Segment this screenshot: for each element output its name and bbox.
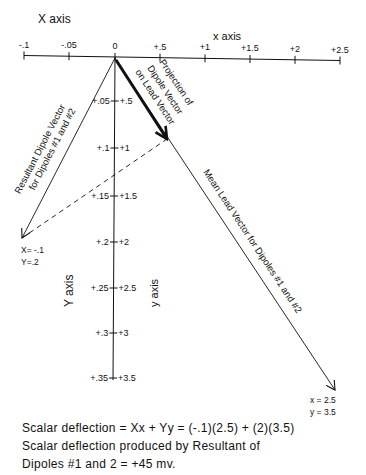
y-tick-label-right: +.5 xyxy=(120,96,133,106)
vertical-axis xyxy=(113,57,115,380)
x-tick-label: +.5 xyxy=(154,42,167,52)
y-axis-title-lower: y axis xyxy=(148,278,160,307)
y-tick-label-left: +.25 xyxy=(91,283,109,293)
resultant-endpoint-y: Y=.2 xyxy=(21,257,39,267)
x-axis-ticks: -.1-.050+.5+1+1.5+2+2.5 xyxy=(19,40,349,65)
resultant-endpoint-x: X= -.1 xyxy=(21,245,44,255)
y-axis-title-upper: Y axis xyxy=(62,275,76,307)
x-tick-label: +2.5 xyxy=(331,45,349,55)
caption-line-2: Scalar deflection produced by Resultant … xyxy=(22,439,260,453)
y-tick-label-left: +.15 xyxy=(91,191,109,201)
lead-endpoint-y: y = 3.5 xyxy=(310,407,336,417)
y-tick-label-left: +.2 xyxy=(96,237,109,247)
horizontal-axis xyxy=(24,56,340,61)
y-tick-label-right: +2 xyxy=(119,237,129,247)
x-tick-label: +2 xyxy=(290,44,300,54)
mean-lead-label: Mean Lead Vector for Dipoles #1 and #2 xyxy=(201,167,304,315)
x-tick-label: +1 xyxy=(200,42,210,52)
y-tick-label-left: +.1 xyxy=(97,143,110,153)
x-axis-title-upper: X axis xyxy=(38,12,71,26)
caption-line-1: Scalar deflection = Xx + Yy = (-.1)(2.5)… xyxy=(22,421,295,435)
vector-diagram: X axis x axis -.1-.050+.5+1+1.5+2+2.5 +.… xyxy=(0,0,366,475)
x-tick-label: -.05 xyxy=(61,40,77,50)
y-tick-label-right: +1.5 xyxy=(119,191,137,201)
y-tick-label-left: +.35 xyxy=(90,373,108,383)
y-tick-label-right: +3 xyxy=(118,328,128,338)
x-axis-title-lower: x axis xyxy=(213,30,242,42)
x-tick-label: -.1 xyxy=(19,40,30,50)
x-tick-label: 0 xyxy=(112,41,117,51)
y-tick-label-right: +2.5 xyxy=(119,283,137,293)
lead-endpoint-x: x = 2.5 xyxy=(310,395,336,405)
y-tick-label-left: +.3 xyxy=(96,328,109,338)
y-tick-label-right: +1 xyxy=(119,143,129,153)
y-tick-label-right: +3.5 xyxy=(118,373,136,383)
x-tick-label: +1.5 xyxy=(241,43,259,53)
caption-line-3: Dipoles #1 and 2 = +45 mv. xyxy=(22,457,176,471)
